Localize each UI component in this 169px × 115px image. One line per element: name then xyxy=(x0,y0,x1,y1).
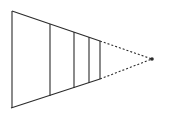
vanishing-point-dot xyxy=(150,57,154,61)
figure-canvas xyxy=(0,0,169,115)
figure-background xyxy=(0,0,169,115)
perspective-figure xyxy=(0,0,169,115)
